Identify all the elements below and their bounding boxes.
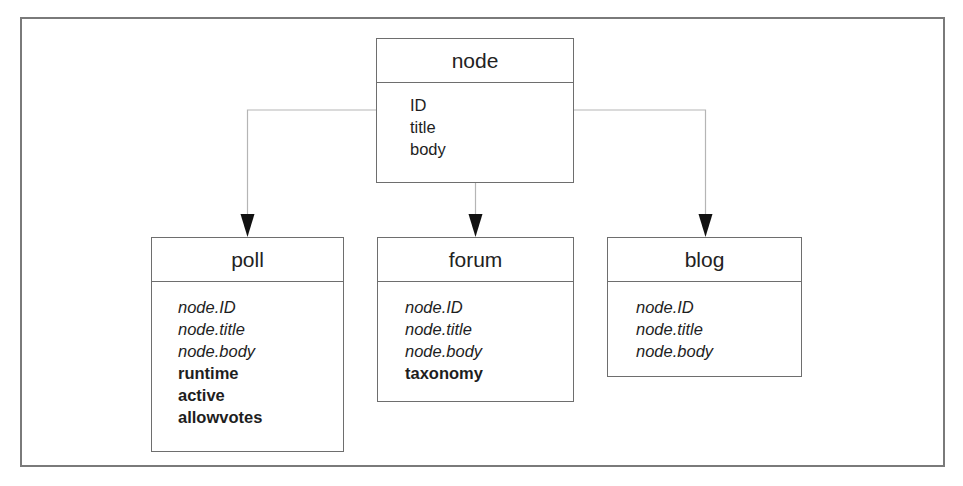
entity-title: blog [608, 238, 801, 282]
own-attribute: runtime [178, 362, 343, 384]
own-attribute: allowvotes [178, 406, 343, 428]
entity-title: poll [152, 238, 343, 282]
inherited-attribute: node.ID [405, 296, 573, 318]
entity-attributes: node.ID node.title node.body [608, 282, 801, 362]
entity-node: node ID title body [376, 38, 574, 183]
inherited-attribute: node.ID [178, 296, 343, 318]
entity-blog: blog node.ID node.title node.body [607, 237, 802, 377]
entity-attributes: node.ID node.title node.body runtime act… [152, 282, 343, 428]
inherited-attribute: node.body [178, 340, 343, 362]
entity-title: forum [378, 238, 573, 282]
inherited-attribute: node.body [405, 340, 573, 362]
attribute: body [410, 138, 573, 160]
entity-attributes: node.ID node.title node.body taxonomy [378, 282, 573, 384]
entity-attributes: ID title body [377, 83, 573, 160]
entity-poll: poll node.ID node.title node.body runtim… [151, 237, 344, 452]
own-attribute: active [178, 384, 343, 406]
inherited-attribute: node.ID [636, 296, 801, 318]
entity-forum: forum node.ID node.title node.body taxon… [377, 237, 574, 402]
attribute: title [410, 116, 573, 138]
attribute: ID [410, 94, 573, 116]
inherited-attribute: node.title [405, 318, 573, 340]
entity-title: node [377, 39, 573, 83]
inherited-attribute: node.title [178, 318, 343, 340]
inherited-attribute: node.body [636, 340, 801, 362]
own-attribute: taxonomy [405, 362, 573, 384]
inherited-attribute: node.title [636, 318, 801, 340]
